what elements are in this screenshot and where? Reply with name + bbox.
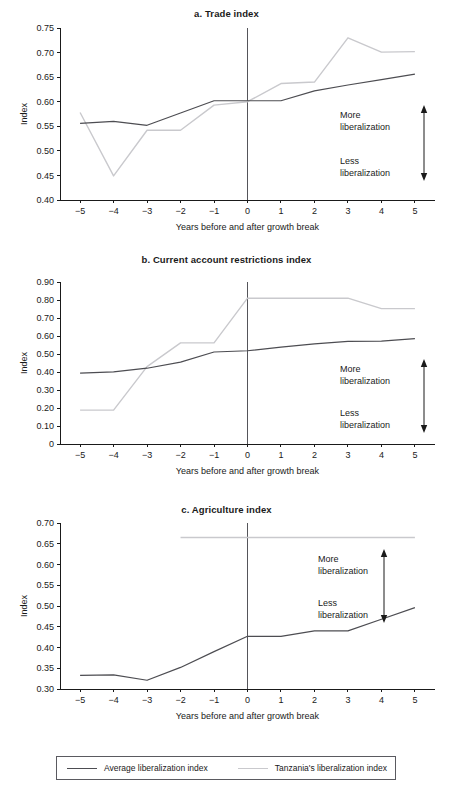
x-tick-label: 4 [379,450,384,460]
x-tick-label: 1 [278,206,283,216]
x-tick-label: −4 [108,450,118,460]
y-tick-label: 0.70 [36,48,54,58]
annotation-more-line1: More [340,110,361,120]
y-tick-label: 0.50 [36,146,54,156]
y-tick-label: 0.65 [36,539,54,549]
x-axis-title: Years before and after growth break [176,466,320,476]
x-tick-label: −2 [175,450,185,460]
annotation-more-line2: liberalization [318,566,368,576]
chart-a-title: a. Trade index [0,8,453,19]
x-tick-label: 0 [245,206,250,216]
x-tick-label: 0 [245,695,250,705]
y-tick-label: 0.30 [36,684,54,694]
legend-swatch-tanzania-icon [238,768,268,769]
annotation-less-line2: liberalization [318,610,368,620]
x-tick-label: 4 [379,695,384,705]
x-tick-label: −2 [175,206,185,216]
x-tick-label: 2 [312,206,317,216]
y-tick-label: 0.45 [36,622,54,632]
annotation-less-line1: Less [318,598,338,608]
x-tick-label: −1 [209,695,219,705]
y-tick-label: 0.20 [36,403,54,413]
chart-c-title: c. Agriculture index [0,504,453,515]
y-axis-title: Index [19,351,29,374]
y-tick-label: 0.70 [36,313,54,323]
chart-a-plot: 0.400.450.500.550.600.650.700.75−5−4−3−2… [0,0,453,246]
chart-c-plot: 0.300.350.400.450.500.550.600.650.70−5−4… [0,496,453,742]
figure-liberalization-indices: a. Trade index 0.400.450.500.550.600.650… [0,0,453,786]
annotation-less-line1: Less [340,408,360,418]
y-tick-label: 0.50 [36,601,54,611]
x-tick-label: 2 [312,695,317,705]
x-tick-label: 1 [278,450,283,460]
annotation-more-line1: More [340,364,361,374]
chart-panel-b: b. Current account restrictions index 00… [0,246,453,496]
y-tick-label: 0.55 [36,580,54,590]
x-tick-label: −1 [209,450,219,460]
figure-legend: Average liberalization index Tanzania's … [56,756,396,780]
y-tick-label: 0.65 [36,72,54,82]
arrow-head-down-icon [421,173,427,181]
x-tick-label: −1 [209,206,219,216]
x-tick-label: −5 [75,206,85,216]
chart-b-plot: 00.100.200.300.400.500.600.700.800.90−5−… [0,246,453,496]
x-tick-label: −4 [108,206,118,216]
x-tick-label: 0 [245,450,250,460]
x-tick-label: −3 [142,695,152,705]
arrow-head-down-icon [421,425,427,433]
chart-panel-c: c. Agriculture index 0.300.350.400.450.5… [0,496,453,742]
y-tick-label: 0.60 [36,560,54,570]
x-tick-label: −3 [142,450,152,460]
arrow-head-up-icon [421,105,427,113]
y-tick-label: 0.40 [36,643,54,653]
y-tick-label: 0.50 [36,349,54,359]
x-tick-label: 1 [278,695,283,705]
x-tick-label: 4 [379,206,384,216]
annotation-less-line1: Less [340,156,360,166]
annotation-more-line1: More [318,554,339,564]
x-tick-label: −4 [108,695,118,705]
y-tick-label: 0.70 [36,518,54,528]
chart-panel-a: a. Trade index 0.400.450.500.550.600.650… [0,0,453,246]
y-tick-label: 0.60 [36,331,54,341]
annotation-less-line2: liberalization [340,420,390,430]
y-tick-label: 0.75 [36,23,54,33]
x-tick-label: 5 [412,695,417,705]
y-tick-label: 0.45 [36,171,54,181]
x-tick-label: −5 [75,695,85,705]
arrow-head-up-icon [421,359,427,367]
y-axis-title: Index [19,594,29,617]
y-tick-label: 0.30 [36,385,54,395]
y-tick-label: 0.40 [36,367,54,377]
annotation-less-line2: liberalization [340,168,390,178]
annotation-more-line2: liberalization [340,122,390,132]
y-tick-label: 0.55 [36,121,54,131]
y-axis-title: Index [19,102,29,125]
x-tick-label: −5 [75,450,85,460]
y-tick-label: 0.60 [36,97,54,107]
legend-label-average: Average liberalization index [104,763,208,773]
x-axis-title: Years before and after growth break [176,222,320,232]
legend-item-tanzania: Tanzania's liberalization index [238,763,387,773]
arrow-head-up-icon [381,549,387,557]
legend-item-average: Average liberalization index [67,763,208,773]
x-axis-title: Years before and after growth break [176,711,320,721]
y-tick-label: 0.10 [36,421,54,431]
y-tick-label: 0 [49,439,54,449]
y-tick-label: 0.90 [36,277,54,287]
x-tick-label: 5 [412,206,417,216]
legend-swatch-average-icon [67,768,97,769]
x-tick-label: −2 [175,695,185,705]
y-tick-label: 0.40 [36,195,54,205]
chart-b-title: b. Current account restrictions index [0,254,453,265]
annotation-more-line2: liberalization [340,376,390,386]
x-tick-label: −3 [142,206,152,216]
x-tick-label: 3 [345,206,350,216]
x-tick-label: 3 [345,450,350,460]
x-tick-label: 3 [345,695,350,705]
figure-legend-area: Average liberalization index Tanzania's … [0,742,453,786]
y-tick-label: 0.80 [36,295,54,305]
x-tick-label: 2 [312,450,317,460]
legend-label-tanzania: Tanzania's liberalization index [275,763,387,773]
y-tick-label: 0.35 [36,663,54,673]
